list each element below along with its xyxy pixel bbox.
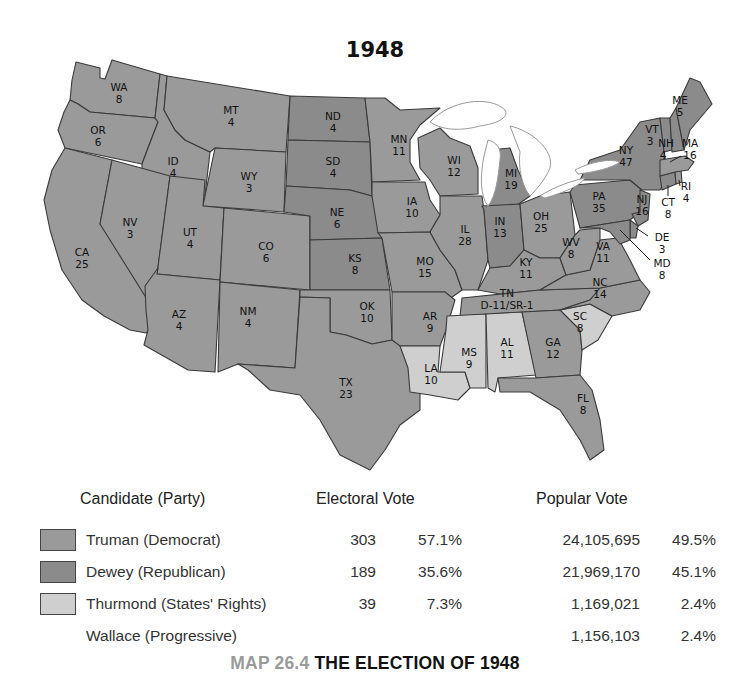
legend-header-popular: Popular Vote — [536, 490, 628, 508]
electoral-votes: 39 — [310, 595, 376, 613]
popular-pct: 45.1% — [650, 563, 716, 581]
svg-text:GA12: GA12 — [545, 336, 561, 360]
legend-header-electoral: Electoral Vote — [316, 490, 415, 508]
svg-text:NC14: NC14 — [592, 276, 607, 300]
popular-votes: 1,156,103 — [520, 627, 640, 645]
svg-text:KY11: KY11 — [519, 256, 533, 280]
legend-row-dewey: Dewey (Republican) 189 35.6% 21,969,170 … — [40, 560, 730, 586]
svg-text:OK10: OK10 — [359, 300, 375, 324]
caption-title: THE ELECTION OF 1948 — [314, 653, 519, 673]
caption-number: MAP 26.4 — [230, 653, 309, 673]
legend-row-thurmond: Thurmond (States' Rights) 39 7.3% 1,169,… — [40, 592, 730, 618]
electoral-pct: 7.3% — [386, 595, 462, 613]
legend-swatch-thurmond — [40, 593, 76, 615]
svg-text:IA10: IA10 — [405, 195, 418, 219]
svg-text:WI12: WI12 — [447, 154, 460, 178]
svg-text:NY47: NY47 — [619, 144, 634, 168]
map-caption: MAP 26.4 THE ELECTION OF 1948 — [0, 653, 750, 674]
electoral-pct: 35.6% — [386, 563, 462, 581]
electoral-votes: 303 — [310, 531, 376, 549]
popular-pct: 2.4% — [650, 627, 716, 645]
popular-pct: 2.4% — [650, 595, 716, 613]
state-fl — [498, 375, 604, 460]
svg-text:CT8: CT8 — [661, 196, 675, 220]
svg-text:MD8: MD8 — [653, 257, 670, 281]
svg-text:VA11: VA11 — [596, 240, 611, 264]
electoral-pct: 57.1% — [386, 531, 462, 549]
svg-text:OH25: OH25 — [533, 210, 549, 234]
popular-votes: 21,969,170 — [520, 563, 640, 581]
svg-text:TX23: TX23 — [338, 376, 353, 400]
candidate-name: Truman (Democrat) — [86, 531, 221, 549]
legend-swatch-dewey — [40, 561, 76, 583]
svg-text:MN11: MN11 — [391, 133, 408, 157]
legend-row-truman: Truman (Democrat) 303 57.1% 24,105,695 4… — [40, 528, 730, 554]
legend-swatch-truman — [40, 529, 76, 551]
svg-text:DE3: DE3 — [655, 231, 670, 255]
svg-text:AL11: AL11 — [500, 336, 513, 360]
svg-text:MI19: MI19 — [504, 167, 517, 191]
candidate-name: Thurmond (States' Rights) — [86, 595, 266, 613]
us-electoral-map: WA8 OR6 CA25 ID4 NV3 MT4 WY3 UT4 AZ4 CO6… — [0, 0, 750, 480]
svg-text:IN13: IN13 — [493, 215, 506, 239]
popular-pct: 49.5% — [650, 531, 716, 549]
legend-row-wallace: Wallace (Progressive) 1,156,103 2.4% — [40, 624, 730, 650]
svg-text:PA35: PA35 — [592, 190, 606, 214]
svg-text:RI4: RI4 — [681, 180, 691, 204]
candidate-name: Dewey (Republican) — [86, 563, 226, 581]
state-nm — [218, 282, 300, 372]
svg-text:MA16: MA16 — [682, 137, 699, 161]
legend-header-candidate: Candidate (Party) — [80, 490, 205, 508]
svg-text:NJ16: NJ16 — [635, 193, 649, 217]
electoral-votes: 189 — [310, 563, 376, 581]
lake-superior — [430, 101, 506, 129]
candidate-name: Wallace (Progressive) — [86, 627, 237, 645]
leader-de — [636, 228, 648, 236]
state-ks — [310, 238, 390, 290]
popular-votes: 24,105,695 — [520, 531, 640, 549]
svg-text:LA10: LA10 — [424, 362, 438, 386]
svg-text:MO15: MO15 — [416, 255, 433, 279]
popular-votes: 1,169,021 — [520, 595, 640, 613]
svg-text:CA25: CA25 — [75, 246, 90, 270]
